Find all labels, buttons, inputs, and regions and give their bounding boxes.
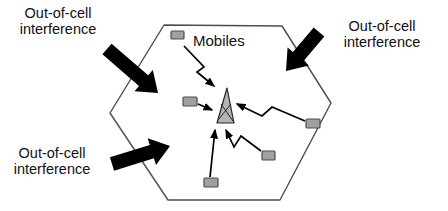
signal-arrow	[198, 104, 212, 110]
signal-arrow	[237, 104, 305, 121]
signal-arrow	[210, 130, 215, 177]
out-of-cell-interference-label-bottom-left: Out-of-cell interference	[0, 146, 104, 177]
interference-arrow	[110, 138, 170, 170]
mobile-device	[204, 178, 218, 187]
mobile-device	[306, 119, 320, 128]
mobile-device	[183, 97, 197, 106]
mobiles-label: Mobiles	[193, 33, 245, 49]
mobile-device	[171, 31, 184, 39]
out-of-cell-interference-label-top-right: Out-of-cell interference	[330, 19, 434, 50]
mobile-device	[262, 151, 275, 160]
signal-arrow	[184, 46, 214, 86]
interference-arrow	[286, 28, 324, 72]
cell-interference-figure: Out-of-cell interference Out-of-cell int…	[0, 0, 448, 211]
signal-arrow	[226, 130, 261, 151]
out-of-cell-interference-label-top-left: Out-of-cell interference	[6, 6, 110, 37]
interference-arrow	[102, 44, 158, 93]
